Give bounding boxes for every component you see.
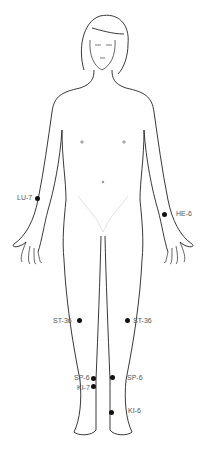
acupoint-label: ST-36: [133, 317, 152, 325]
acupoint-marker: [125, 318, 130, 323]
acupoint-marker: [162, 212, 167, 217]
pelvic-line: [78, 196, 128, 232]
acupoint-label: ST-36: [53, 317, 72, 325]
acupoint-marker: [109, 410, 114, 415]
body-outline: [0, 0, 206, 451]
acupoint-marker: [110, 375, 115, 380]
acupoint-label: KI-6: [128, 407, 141, 415]
left-arm: [13, 112, 52, 247]
acupoint-marker: [77, 318, 82, 323]
acupoint-label: KI-7: [77, 384, 90, 392]
acupoint-marker: [91, 384, 96, 389]
acupoint-label: SP-6: [74, 374, 90, 382]
acupoint-marker: [35, 196, 40, 201]
right-arm: [154, 112, 193, 247]
left-leg: [64, 260, 96, 435]
acupoint-label: LU-7: [17, 194, 32, 202]
face: [90, 40, 115, 70]
acupoint-marker: [91, 376, 96, 381]
hair: [81, 15, 128, 74]
acupoint-label: SP-6: [127, 374, 143, 382]
acupoint-label: HE-6: [176, 210, 192, 218]
